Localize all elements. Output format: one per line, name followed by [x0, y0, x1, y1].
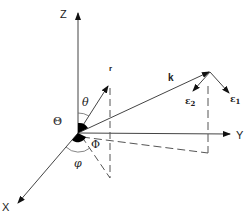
theta-filled-wedge [78, 123, 88, 133]
theta-arc [78, 113, 89, 116]
phi-capital-label: Φ [91, 138, 100, 151]
r-label: r [109, 64, 112, 73]
epsilon-2-label: ε2 [185, 96, 195, 108]
y-axis [78, 133, 230, 134]
epsilon-1-label: ε1 [230, 94, 240, 106]
phi-small-label: φ [74, 157, 82, 170]
phi-arc [66, 147, 90, 152]
x-axis [18, 133, 78, 203]
theta-capital-label: Θ [53, 115, 62, 128]
k-xy-projection [82, 137, 208, 153]
coordinate-diagram: Z Y X r k ε2 ε1 θ Θ Φ φ [0, 0, 249, 214]
z-axis-label: Z [60, 8, 67, 20]
y-axis-label: Y [236, 129, 244, 141]
epsilon-1-vector [210, 72, 229, 93]
phi-filled-wedge [72, 133, 86, 142]
epsilon-2-vector [193, 72, 210, 91]
k-label: k [168, 72, 174, 83]
theta-label: θ [82, 96, 89, 109]
x-axis-label: X [2, 201, 10, 213]
